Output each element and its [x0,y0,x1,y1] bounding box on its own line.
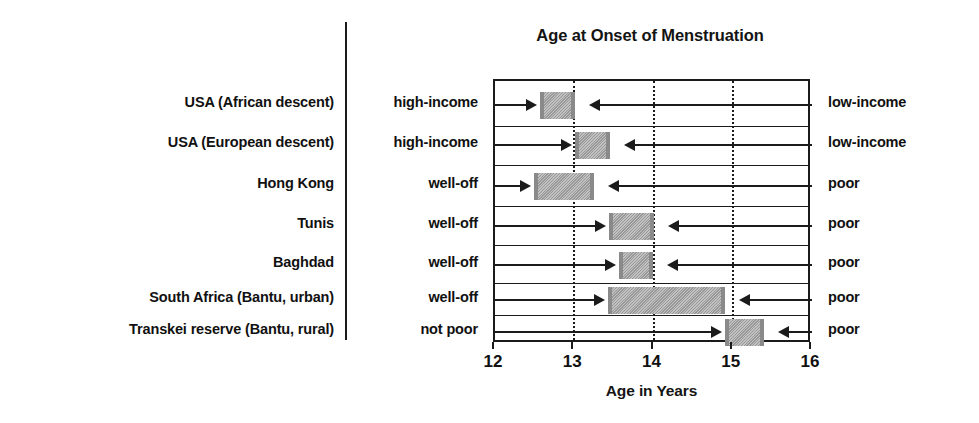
left-status-label: high-income [356,94,478,110]
arrow-head-right-pointing-left [624,139,635,151]
chart-title: Age at Onset of Menstruation [470,26,830,45]
arrow-head-left-pointing-right [561,139,572,151]
gridline-15 [732,81,734,340]
arrow-line-left [495,225,595,227]
x-tick-label: 15 [706,352,756,372]
arrow-head-right-pointing-left [589,99,600,111]
arrow-line-left [495,185,520,187]
place-label: Baghdad [0,254,334,270]
range-bar [540,92,575,119]
right-status-label: low-income [828,94,978,110]
right-status-label: poor [828,289,978,305]
arrow-head-right-pointing-left [608,180,619,192]
x-axis-ticks [493,342,810,352]
arrow-head-right-pointing-left [668,220,679,232]
x-tick-mark [492,342,494,349]
place-label: Transkei reserve (Bantu, rural) [0,321,334,337]
right-status-label: poor [828,215,978,231]
place-label: South Africa (Bantu, urban) [0,289,334,305]
place-label: USA (African descent) [0,94,334,110]
left-status-label: high-income [356,134,478,150]
place-label: Tunis [0,215,334,231]
arrow-line-right [600,104,812,106]
arrow-line-right [678,264,812,266]
arrow-line-left [495,104,526,106]
range-bar [609,213,654,240]
row-separator [495,245,808,246]
gridline-13 [573,81,575,340]
x-tick-mark [809,342,811,349]
row-separator [495,165,808,166]
place-label-column: USA (African descent)USA (European desce… [0,0,334,423]
row-separator [495,206,808,207]
label-divider [345,22,347,340]
arrow-line-left [495,299,594,301]
chart-figure: Age at Onset of Menstruation USA (Africa… [0,0,979,423]
arrow-line-right [635,144,812,146]
plot-inner [495,81,808,340]
arrow-head-right-pointing-left [739,294,750,306]
place-label: Hong Kong [0,175,334,191]
arrow-head-right-pointing-left [778,326,789,338]
left-status-label: well-off [356,254,478,270]
left-status-label: well-off [356,215,478,231]
arrow-line-left [495,144,561,146]
x-axis-title: Age in Years [493,382,810,400]
right-status-label: poor [828,175,978,191]
right-status-column: low-incomelow-incomepoorpoorpoorpoorpoor [828,0,978,423]
arrow-line-left [495,264,605,266]
arrow-line-right [750,299,812,301]
range-bar [575,132,610,159]
arrow-head-right-pointing-left [667,259,678,271]
x-tick-label: 16 [785,352,835,372]
row-separator [495,315,808,316]
arrow-line-right [789,331,812,333]
arrow-head-left-pointing-right [594,294,605,306]
arrow-head-left-pointing-right [711,326,722,338]
arrow-line-left [495,331,711,333]
place-label: USA (European descent) [0,134,334,150]
x-tick-mark [730,342,732,349]
left-status-label: well-off [356,289,478,305]
x-tick-mark [651,342,653,349]
arrow-head-left-pointing-right [595,220,606,232]
right-status-label: poor [828,254,978,270]
right-status-label: low-income [828,134,978,150]
range-bar [619,252,653,279]
x-tick-label: 14 [627,352,677,372]
x-tick-label: 13 [547,352,597,372]
left-status-label: not poor [356,321,478,337]
arrow-head-left-pointing-right [605,259,616,271]
arrow-head-left-pointing-right [520,180,531,192]
x-axis-tick-labels: 1213141516 [453,352,850,378]
plot-area [493,79,810,342]
left-status-label: well-off [356,175,478,191]
range-bar [534,173,594,200]
x-tick-label: 12 [468,352,518,372]
arrow-line-right [679,225,812,227]
arrow-line-right [619,185,812,187]
range-bar [608,287,724,314]
row-separator [495,283,808,284]
right-status-label: poor [828,321,978,337]
x-tick-mark [571,342,573,349]
row-separator [495,126,808,127]
arrow-head-left-pointing-right [526,99,537,111]
